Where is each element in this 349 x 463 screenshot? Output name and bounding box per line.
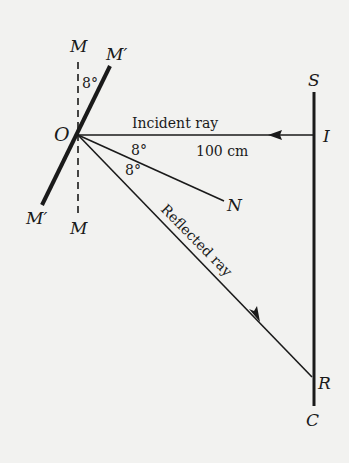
angle-reflection: 8° [125, 162, 141, 178]
label-m-top: M [69, 36, 88, 56]
label-m-bottom: M [69, 218, 88, 238]
label-normal-end: N [226, 195, 243, 215]
label-m-prime-bottom: M′ [25, 208, 47, 228]
label-m-prime-top: M′ [105, 44, 127, 64]
distance-label: 100 cm [196, 143, 248, 159]
incident-arrow-icon [268, 130, 282, 140]
angle-incidence: 8° [131, 142, 147, 158]
reflected-ray [78, 135, 312, 377]
label-incident-point: I [322, 126, 330, 146]
label-screen-top: S [308, 70, 320, 90]
label-reflected-point: R [317, 373, 331, 393]
mirror-reflection-diagram: M M′ 8° O M′ M Incident ray 100 cm 8° 8°… [0, 0, 349, 463]
incident-ray-label: Incident ray [132, 115, 218, 131]
label-screen-bottom: C [306, 410, 319, 430]
reflected-ray-label: Reflected ray [158, 201, 236, 280]
label-origin: O [54, 123, 70, 145]
angle-mirror-rotation: 8° [82, 75, 98, 91]
